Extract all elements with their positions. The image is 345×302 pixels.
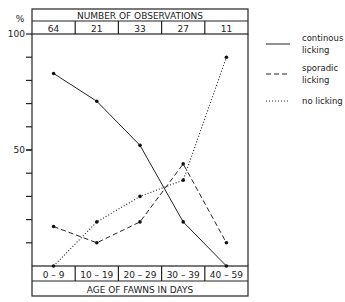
legend-label: licking [302, 75, 329, 85]
y-tick-label: 100 [8, 29, 25, 39]
series-line-sporadic-licking [54, 164, 227, 243]
data-point [225, 241, 229, 245]
data-point [138, 195, 142, 199]
data-point [181, 162, 185, 166]
observations-header-label: NUMBER OF OBSERVATIONS [77, 11, 203, 21]
data-point [95, 99, 99, 103]
x-tick-label: 20 – 29 [123, 270, 156, 280]
x-tick-label: 0 – 9 [43, 270, 65, 280]
x-axis-label: AGE OF FAWNS IN DAYS [87, 285, 194, 295]
observation-count: 27 [177, 24, 188, 34]
series-line-continous-licking [54, 73, 227, 266]
data-point [138, 220, 142, 224]
legend-label: continous [302, 33, 344, 43]
legend-label: no licking [302, 96, 343, 106]
x-tick-label: 40 – 59 [210, 270, 243, 280]
y-axis-label: % [16, 14, 25, 24]
observation-count: 64 [48, 24, 60, 34]
data-point [52, 264, 56, 268]
data-point [52, 72, 56, 76]
observation-count: 11 [221, 24, 232, 34]
legend-label: licking [302, 45, 329, 55]
data-point [225, 55, 229, 59]
data-point [52, 225, 56, 229]
observation-count: 21 [91, 24, 102, 34]
chart: NUMBER OF OBSERVATIONS64213327110 – 910 … [0, 0, 345, 302]
data-point [95, 220, 99, 224]
data-point [181, 220, 185, 224]
legend-label: sporadic [302, 63, 338, 73]
y-tick-label: 50 [14, 145, 26, 155]
data-point [95, 241, 99, 245]
data-point [225, 264, 229, 268]
series-line-no-licking [54, 57, 227, 266]
x-tick-label: 30 – 39 [167, 270, 200, 280]
x-tick-label: 10 – 19 [80, 270, 113, 280]
data-point [138, 144, 142, 148]
data-point [181, 178, 185, 182]
observation-count: 33 [134, 24, 145, 34]
